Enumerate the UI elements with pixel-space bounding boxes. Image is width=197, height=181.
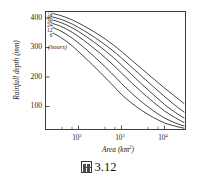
- y-tick-label-200: 200: [31, 72, 43, 81]
- series-label-6: 6: [50, 32, 53, 38]
- curve-36h: [53, 20, 184, 118]
- y-axis-tick-labels: 400 300 200 100: [31, 13, 43, 111]
- x-axis-ticks: [79, 126, 165, 130]
- y-tick-label-400: 400: [31, 13, 43, 22]
- legend-units-label: (hours): [48, 43, 67, 51]
- figure-caption: 3.12: [0, 155, 197, 179]
- dad-curve-chart: 400 300 200 100 Rainfall depth (mm) 102 …: [0, 0, 197, 181]
- cjk-tofu-glyph: [81, 161, 92, 173]
- y-axis-title: Rainfall depth (mm): [12, 40, 21, 101]
- y-tick-label-300: 300: [31, 42, 43, 51]
- y-tick-label-100: 100: [31, 101, 43, 110]
- curve-group: [53, 14, 184, 129]
- x-tick-label-1e4: 104: [158, 133, 168, 142]
- caption-number: 3.12: [95, 161, 117, 174]
- figure-container: 400 300 200 100 Rainfall depth (mm) 102 …: [0, 0, 197, 181]
- curve-48h: [53, 17, 184, 112]
- x-tick-label-1e3: 103: [115, 133, 125, 142]
- x-tick-label-1e2: 102: [72, 133, 82, 142]
- x-axis-tick-labels: 102 103 104: [72, 133, 168, 142]
- series-labels: 72 48 36 24 12 6: [47, 10, 53, 38]
- curve-72h: [53, 14, 184, 104]
- x-axis-title: Area (km2): [101, 144, 135, 154]
